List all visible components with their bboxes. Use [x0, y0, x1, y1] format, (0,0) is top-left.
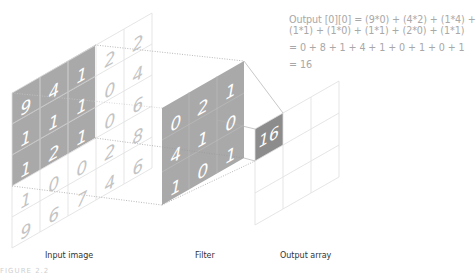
figure-caption: FIGURE 2.2 [0, 267, 49, 275]
equation-line-3: = 0 + 8 + 1 + 4 + 1 + 0 + 1 + 0 + 1 [289, 42, 465, 53]
equation-line-1: Output [0][0] = (9*0) + (4*2) + (1*4) + [289, 14, 476, 25]
equation-line-2: (1*1) + (1*0) + (1*1) + (2*0) + (1*1) [289, 25, 464, 36]
label-output-array: Output array [280, 251, 331, 260]
equation-line-4: = 16 [289, 59, 312, 70]
label-input-image: Input image [45, 251, 93, 260]
output-array-grid [255, 81, 339, 225]
label-filter: Filter [195, 251, 215, 260]
